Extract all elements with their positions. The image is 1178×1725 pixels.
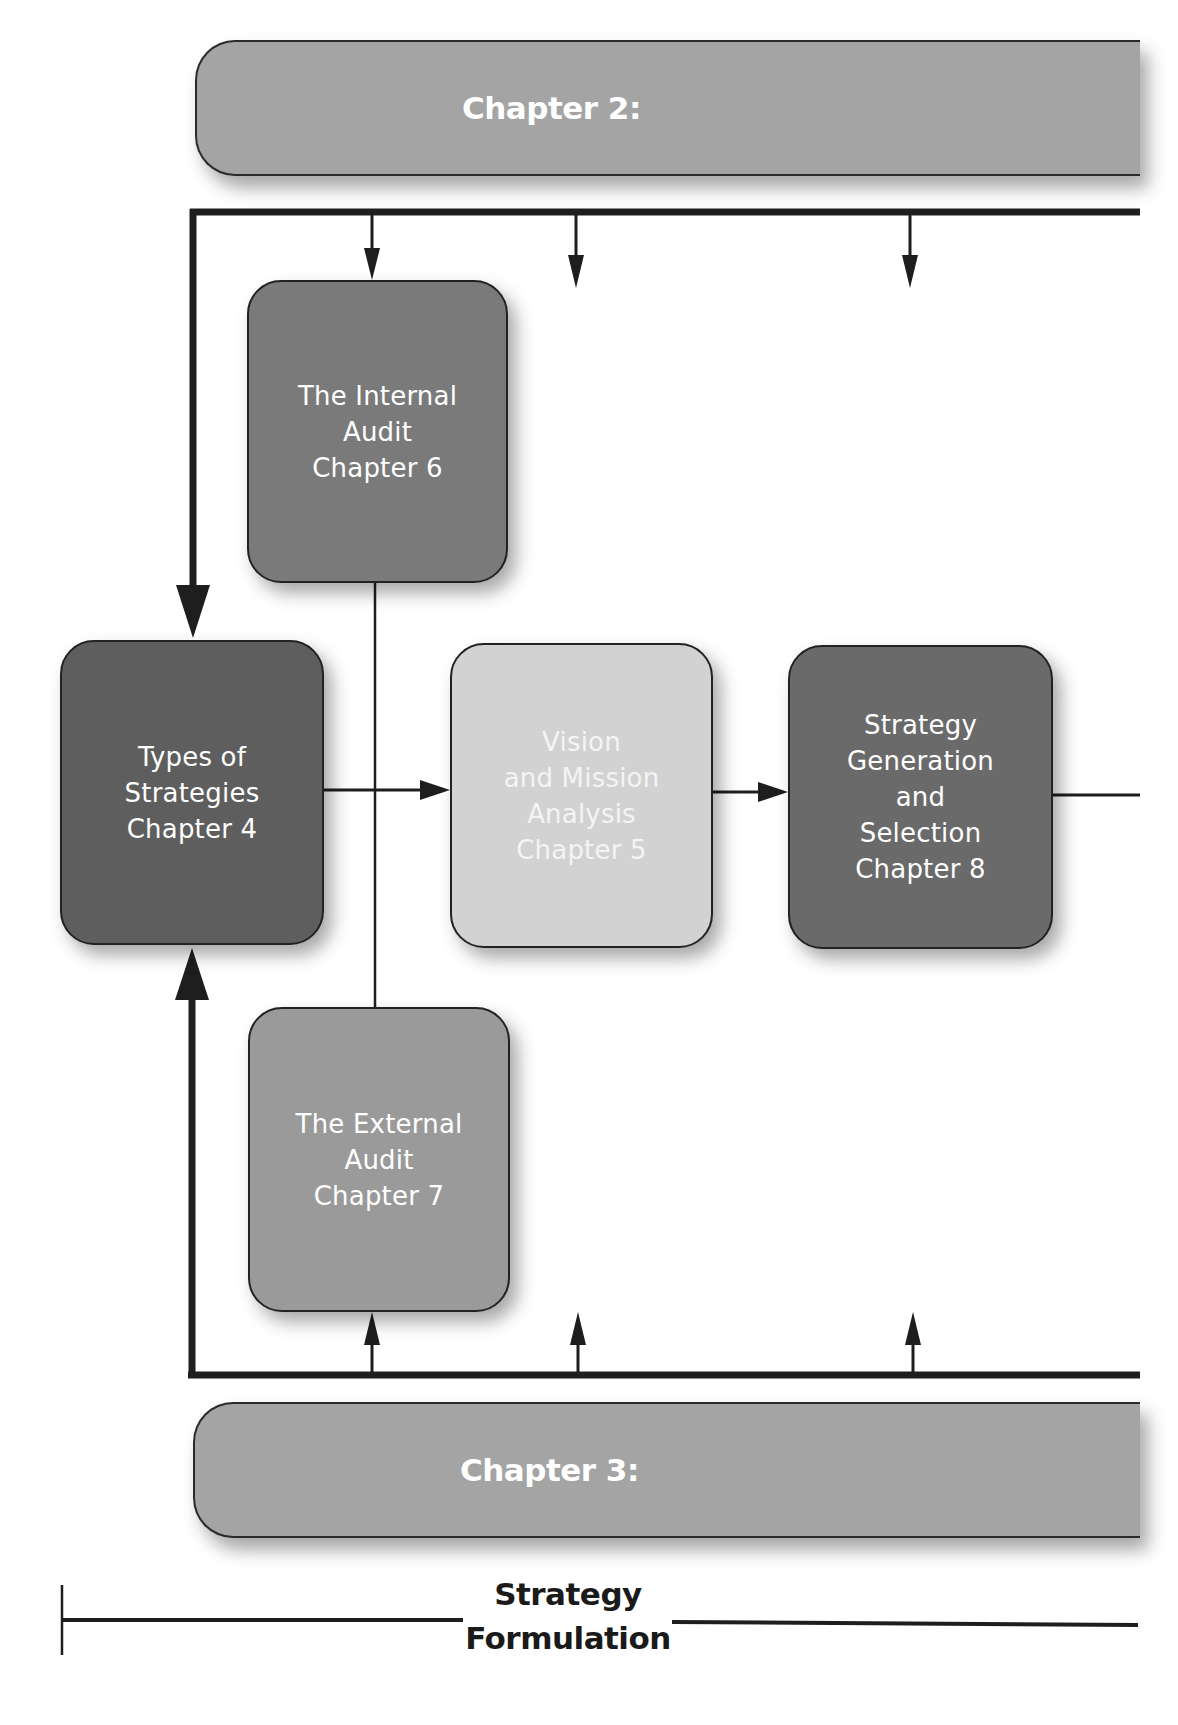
internal-audit-box: The Internal Audit Chapter 6: [247, 280, 508, 583]
arrow-down-to-types-icon: [176, 585, 210, 638]
box-text-line: Audit: [344, 1142, 413, 1178]
chapter-2-label: Chapter 2:: [462, 90, 641, 126]
box-text-line: Chapter 4: [127, 811, 258, 847]
box-text-line: Generation: [847, 743, 994, 779]
chapter-2-bar: Chapter 2:: [195, 40, 1140, 176]
vision-mission-box: Vision and Mission Analysis Chapter 5: [450, 643, 713, 948]
chapter-3-label: Chapter 3:: [460, 1452, 639, 1488]
box-text-line: Strategy: [864, 707, 977, 743]
arrow-down-to-internal-icon: [364, 248, 380, 280]
box-text-line: Analysis: [527, 796, 636, 832]
arrow-up-to-external-icon: [364, 1312, 380, 1345]
arrow-up-2-icon: [570, 1312, 586, 1345]
box-text-line: Chapter 5: [516, 832, 647, 868]
types-of-strategies-box: Types of Strategies Chapter 4: [60, 640, 324, 945]
box-text-line: Vision: [542, 724, 621, 760]
arrow-down-3-icon: [902, 255, 918, 288]
arrow-up-to-types-icon: [175, 948, 209, 1000]
arrow-down-2-icon: [568, 255, 584, 288]
box-text-line: and Mission: [504, 760, 660, 796]
box-text-line: Strategies: [125, 775, 260, 811]
footer-line-2: Formulation: [438, 1616, 698, 1660]
footer-line-1: Strategy: [438, 1572, 698, 1616]
box-text-line: Audit: [343, 414, 412, 450]
box-text-line: Chapter 6: [312, 450, 443, 486]
box-text-line: The Internal: [298, 378, 457, 414]
chapter-3-bar: Chapter 3:: [193, 1402, 1140, 1538]
external-audit-box: The External Audit Chapter 7: [248, 1007, 510, 1312]
box-text-line: Types of: [138, 739, 246, 775]
arrow-vision-to-strategy-icon: [758, 782, 788, 802]
strategic-management-diagram: Chapter 2: The Internal Audit Chapter 6 …: [0, 0, 1178, 1725]
box-text-line: Selection: [860, 815, 982, 851]
box-text-line: and: [896, 779, 946, 815]
box-text-line: Chapter 8: [855, 851, 986, 887]
footer-line-right: [672, 1622, 1138, 1625]
arrow-types-to-vision-icon: [420, 780, 450, 800]
strategy-generation-box: Strategy Generation and Selection Chapte…: [788, 645, 1053, 949]
strategy-formulation-label: Strategy Formulation: [438, 1572, 698, 1660]
box-text-line: The External: [296, 1106, 463, 1142]
arrow-up-3-icon: [905, 1312, 921, 1345]
box-text-line: Chapter 7: [314, 1178, 445, 1214]
